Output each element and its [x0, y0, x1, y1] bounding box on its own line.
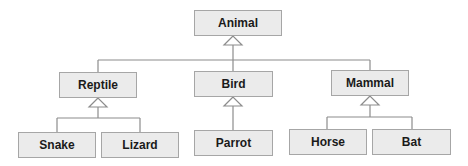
class-snake: Snake [18, 132, 96, 158]
class-animal: Animal [194, 10, 282, 36]
class-lizard-label: Lizard [122, 138, 157, 152]
class-bat-label: Bat [402, 135, 421, 149]
class-lizard: Lizard [101, 132, 179, 158]
class-parrot-label: Parrot [216, 136, 251, 150]
class-mammal-label: Mammal [346, 76, 394, 90]
class-bird: Bird [194, 71, 273, 97]
class-reptile-label: Reptile [78, 78, 118, 92]
mammal-inheritance-triangle-icon [361, 96, 379, 105]
bird-inheritance-triangle-icon [224, 97, 242, 106]
class-horse-label: Horse [311, 135, 345, 149]
class-horse: Horse [289, 129, 367, 155]
animal-inheritance-triangle-icon [224, 36, 242, 45]
class-animal-label: Animal [218, 16, 258, 30]
class-reptile: Reptile [59, 72, 137, 98]
class-bat: Bat [372, 129, 451, 155]
class-bird-label: Bird [222, 77, 246, 91]
class-mammal: Mammal [331, 70, 409, 96]
class-snake-label: Snake [39, 138, 74, 152]
class-parrot: Parrot [194, 130, 273, 156]
reptile-inheritance-triangle-icon [89, 98, 107, 107]
